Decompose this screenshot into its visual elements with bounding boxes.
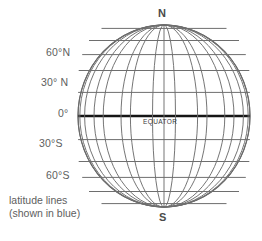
caption-line-2: (shown in blue) bbox=[9, 207, 80, 220]
caption-line-1: latitude lines bbox=[9, 194, 80, 207]
latitude-label-30n: 30° N bbox=[41, 76, 68, 88]
latitude-label-60n: 60°N bbox=[46, 46, 70, 58]
latitude-label-equator: 0° bbox=[58, 107, 68, 119]
north-pole-label: N bbox=[158, 7, 166, 19]
figure-caption: latitude lines (shown in blue) bbox=[9, 194, 80, 219]
globe-diagram-figure: N S 60°N 30° N 0° 30°S 60°S EQUATOR lati… bbox=[0, 0, 262, 241]
south-pole-label: S bbox=[159, 211, 166, 223]
latitude-label-30s: 30°S bbox=[39, 137, 63, 149]
equator-text-label: EQUATOR bbox=[143, 118, 177, 125]
latitude-label-60s: 60°S bbox=[46, 169, 70, 181]
